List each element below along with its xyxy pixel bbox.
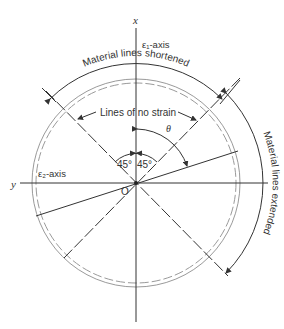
no-strain-leader-left xyxy=(78,112,96,119)
y-axis-label: y xyxy=(10,178,16,190)
x-axis-label: x xyxy=(132,14,138,26)
angle-45-arrow-left xyxy=(130,153,135,154)
no-strain-label: Lines of no strain xyxy=(100,107,176,118)
angle-45-arrow-right xyxy=(137,153,142,154)
no-strain-leader-right xyxy=(178,112,196,120)
strain-circle-diagram: x y ε₁-axis ε₂-axis O Lines of no strain… xyxy=(0,0,284,329)
e2-axis-label: ε₂-axis xyxy=(38,168,66,179)
origin-label: O xyxy=(121,186,129,197)
origin-point xyxy=(134,181,138,185)
tick-top-right xyxy=(220,80,240,104)
theta-label: θ xyxy=(166,123,171,134)
angle-45-right-label: 45° xyxy=(137,159,152,170)
angle-45-left-label: 45° xyxy=(117,159,132,170)
